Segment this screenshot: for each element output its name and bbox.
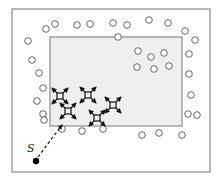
particle bbox=[115, 34, 122, 41]
particle bbox=[135, 48, 142, 55]
particle bbox=[79, 128, 86, 135]
particle bbox=[182, 28, 189, 35]
particle bbox=[186, 51, 193, 58]
particle bbox=[185, 111, 192, 118]
particle bbox=[43, 26, 50, 33]
particle bbox=[40, 85, 47, 92]
particle bbox=[134, 64, 141, 71]
particle bbox=[29, 57, 36, 64]
particle bbox=[74, 22, 81, 29]
source-label: S bbox=[27, 142, 35, 155]
particle bbox=[36, 70, 43, 77]
particle bbox=[148, 54, 155, 61]
source-point bbox=[33, 158, 39, 164]
particle bbox=[156, 130, 163, 137]
particle bbox=[110, 20, 117, 27]
particle bbox=[139, 132, 146, 139]
particle bbox=[146, 17, 153, 24]
particle bbox=[161, 50, 168, 57]
particle bbox=[34, 98, 41, 105]
particle bbox=[166, 63, 173, 70]
dashed-trajectory bbox=[38, 125, 62, 157]
particle bbox=[165, 20, 172, 27]
particle bbox=[186, 71, 193, 78]
particle bbox=[192, 37, 199, 44]
particle bbox=[25, 38, 32, 45]
particle bbox=[87, 21, 94, 28]
particle bbox=[188, 92, 195, 99]
particle bbox=[100, 126, 107, 133]
particle bbox=[40, 111, 47, 118]
particle bbox=[151, 66, 158, 73]
particle bbox=[124, 22, 131, 29]
particle bbox=[179, 132, 186, 139]
particle bbox=[194, 112, 201, 119]
particle bbox=[52, 21, 59, 28]
particle bbox=[41, 117, 48, 124]
